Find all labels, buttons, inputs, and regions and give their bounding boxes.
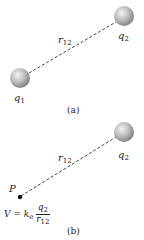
charge-q2-label-a: q2 bbox=[118, 31, 129, 43]
charge-q1-sphere bbox=[10, 68, 30, 88]
charge-subscript: 2 bbox=[124, 154, 128, 162]
charge-q2-sphere-b bbox=[114, 122, 134, 142]
charge-q1-label: q1 bbox=[14, 93, 25, 105]
caption-a: (a) bbox=[67, 105, 79, 115]
formula-constant-subscript: e bbox=[29, 213, 33, 221]
numerator-subscript: 2 bbox=[44, 206, 48, 214]
charge-subscript: 2 bbox=[124, 35, 128, 43]
distance-subscript: 12 bbox=[63, 39, 72, 47]
formula-lhs: V = bbox=[4, 209, 24, 219]
charge-subscript: 1 bbox=[20, 97, 24, 105]
distance-line-a bbox=[29, 22, 116, 73]
distance-label-b: r12 bbox=[58, 153, 72, 165]
point-p-label: P bbox=[9, 184, 16, 194]
distance-label-a: r12 bbox=[58, 35, 72, 47]
distance-subscript: 12 bbox=[63, 157, 72, 165]
formula-fraction: q2 r12 bbox=[36, 203, 49, 227]
distance-line-b bbox=[21, 137, 116, 196]
figure-b bbox=[18, 122, 134, 199]
charge-q2-sphere-a bbox=[114, 6, 134, 26]
figure-a bbox=[10, 6, 134, 88]
denominator-subscript: 12 bbox=[41, 218, 50, 226]
formula-denominator: r12 bbox=[36, 215, 49, 226]
potential-formula: V = ke q2 r12 bbox=[4, 203, 50, 227]
charge-q2-label-b: q2 bbox=[118, 150, 129, 162]
point-p-dot bbox=[18, 195, 22, 199]
caption-b: (b) bbox=[67, 226, 80, 236]
